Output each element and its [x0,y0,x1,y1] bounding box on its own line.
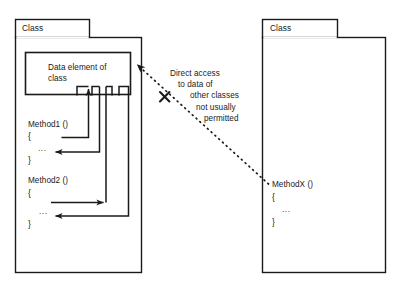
methodx-open-brace: { [272,192,275,203]
right-class-shape [263,20,386,273]
method1-open-brace: { [28,131,31,142]
diagram-canvas: Class Data element of class Method1 () {… [0,0,409,289]
right-class-body-rect [263,38,386,273]
method1-close-brace: } [28,155,31,166]
method1-body-ellipsis: ... [38,144,47,155]
methodx-close-brace: } [272,217,275,228]
method2-close-brace: } [28,219,31,230]
annotation-line-1: Direct access [150,68,245,79]
data-element-box-label: Data element of class [48,62,114,84]
diagram-vector-layer [0,0,409,289]
method1-signature: Method1 () [28,120,68,131]
forbidden-access-annotation: Direct access to data of other classes n… [150,68,245,124]
annotation-line-3: other classes [150,90,245,101]
methodx-signature: MethodX () [272,180,313,191]
annotation-line-5: permitted [150,113,245,124]
method2-body-ellipsis: ... [39,207,48,218]
method2-open-brace: { [28,188,31,199]
methodx-body-ellipsis: ... [282,205,291,216]
annotation-line-2: to data of [150,79,245,90]
left-class-tab-label: Class [22,23,43,34]
method2-signature: Method2 () [28,176,68,187]
right-class-tab-label: Class [270,23,291,34]
annotation-line-4: not usually [150,102,245,113]
